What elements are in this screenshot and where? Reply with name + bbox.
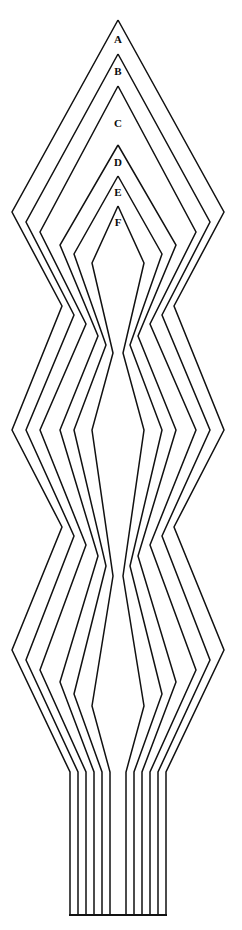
contour-label-d: D: [114, 156, 122, 168]
contour-label-c: C: [114, 117, 122, 129]
contour-label-f: F: [115, 216, 122, 228]
contour-label-b: B: [114, 65, 122, 77]
figure-canvas: ABCDEF: [0, 0, 242, 930]
contour-label-a: A: [114, 33, 122, 45]
lozenge-contour-figure: ABCDEF: [0, 0, 242, 930]
contour-label-e: E: [114, 186, 121, 198]
